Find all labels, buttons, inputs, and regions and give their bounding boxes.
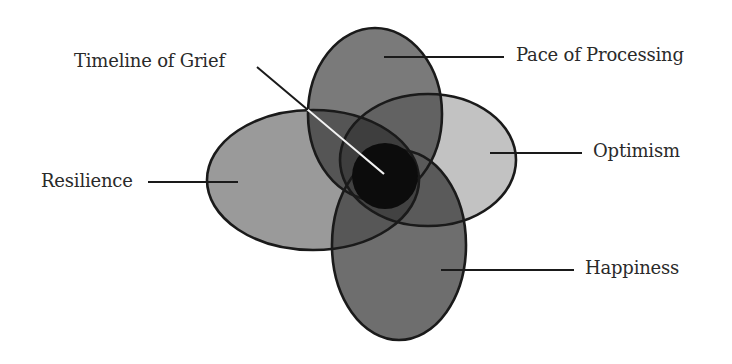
pace-of-processing-label: Pace of Processing: [516, 46, 684, 64]
venn-diagram: Timeline of Grief Pace of Processing Opt…: [0, 0, 732, 364]
happiness-label: Happiness: [585, 259, 679, 277]
timeline-of-grief-center: [352, 143, 418, 209]
timeline-of-grief-label: Timeline of Grief: [74, 52, 225, 70]
resilience-label: Resilience: [41, 172, 133, 190]
optimism-label: Optimism: [593, 142, 680, 160]
